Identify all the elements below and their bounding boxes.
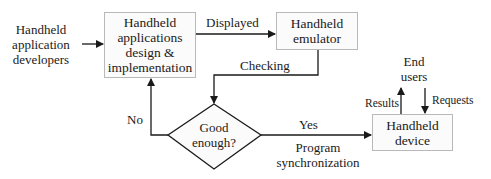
results-label: Results [365, 96, 399, 111]
emulator-box: Handheld emulator [276, 12, 358, 50]
decision-label: Good enough? [184, 120, 244, 150]
design-box: Handheld applications design & implement… [104, 12, 196, 78]
requests-label: Requests [432, 93, 474, 108]
program-synchronization-label: Program synchronization [270, 140, 366, 170]
end-users-label: End users [392, 54, 436, 84]
displayed-label: Displayed [206, 15, 259, 30]
device-box: Handheld device [372, 114, 453, 151]
no-label: No [127, 112, 143, 127]
arrow-no [151, 79, 168, 135]
checking-label: Checking [240, 58, 290, 73]
yes-label: Yes [299, 117, 318, 132]
developers-label: Handheld application developers [5, 22, 77, 67]
